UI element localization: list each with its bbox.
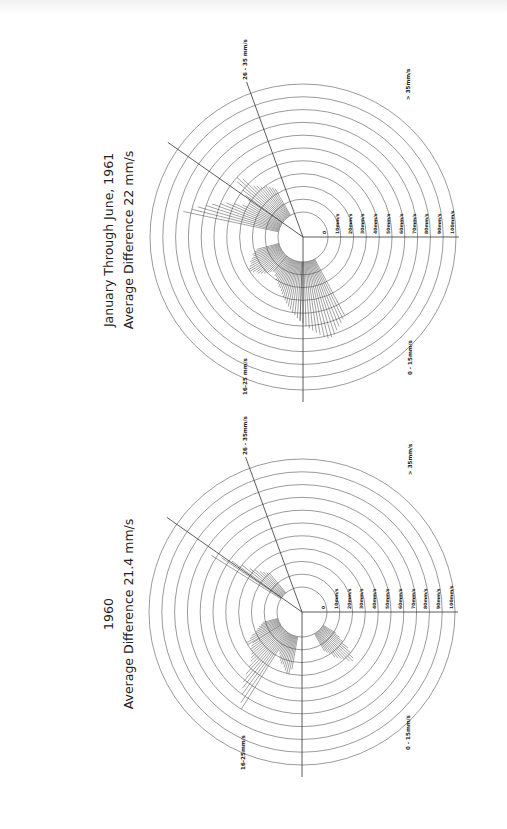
chart-subtitle: Average Difference 21.4 mm/s	[121, 519, 136, 710]
data-ray	[281, 635, 293, 663]
radial-tick-label: 30mm/s	[359, 588, 364, 609]
radial-tick-label: 10mm/s	[335, 213, 340, 234]
radial-tick-label: 100mm/s	[450, 210, 455, 234]
sector-label: 16-25mm/s	[240, 734, 246, 770]
chart-title: 1960	[101, 598, 116, 630]
radial-tick-labels: 010mm/s20mm/s30mm/s40mm/s50mm/s60mm/s70m…	[321, 585, 454, 609]
sector-label: 26 - 35mm/s	[242, 416, 248, 455]
data-ray	[300, 262, 302, 321]
radial-tick-label: 100mm/s	[449, 585, 454, 609]
radial-tick-label: 50mm/s	[386, 213, 391, 234]
data-ray	[305, 262, 310, 328]
radial-tick-label: 90mm/s	[437, 213, 442, 234]
data-ray	[258, 253, 284, 274]
radial-tick-label: 40mm/s	[372, 588, 377, 609]
sector-label: 0 - 15mm/s	[407, 339, 413, 375]
sector-label: 16-25 mm/s	[242, 357, 248, 395]
data-ray	[311, 261, 335, 334]
chart-subtitle: Average Difference 22 mm/s	[121, 151, 136, 330]
radial-tick-label: 10mm/s	[334, 588, 339, 609]
radial-tick-label: 40mm/s	[373, 213, 378, 234]
data-ray	[250, 568, 283, 596]
data-ray	[285, 261, 296, 300]
data-ray	[313, 260, 341, 323]
sector-label: > 35mm/s	[405, 68, 411, 100]
data-ray	[310, 261, 332, 337]
radial-tick-label: 60mm/s	[398, 588, 403, 609]
polar-chart-1961: 010mm/s20mm/s30mm/s40mm/s50mm/s60mm/s70m…	[101, 39, 459, 402]
data-ray	[263, 572, 284, 594]
radial-tick-label: 60mm/s	[399, 213, 404, 234]
data-ray	[222, 558, 281, 598]
data-ray	[243, 631, 286, 682]
sector-label: 26 - 35 mm/s	[242, 39, 248, 80]
radial-tick-label: 20mm/s	[347, 588, 352, 609]
radial-tick-label: 30mm/s	[360, 213, 365, 234]
sector-divider	[167, 517, 302, 612]
sector-divider	[246, 457, 302, 612]
radial-tick-label: 50mm/s	[385, 588, 390, 609]
data-ray	[246, 631, 285, 675]
radial-tick-label: 20mm/s	[348, 213, 353, 234]
radial-tick-label: 0	[321, 606, 326, 609]
data-ray	[304, 262, 306, 326]
data-ray	[198, 207, 279, 230]
data-ray	[317, 632, 335, 657]
radial-tick-label: 70mm/s	[411, 588, 416, 609]
data-ray	[306, 262, 316, 333]
radial-tick-label: 90mm/s	[436, 588, 441, 609]
figure-canvas: 010mm/s20mm/s30mm/s40mm/s50mm/s60mm/s70m…	[0, 0, 507, 829]
data-ray	[206, 206, 279, 230]
radial-tick-label: 80mm/s	[424, 213, 429, 234]
radial-tick-labels: 010mm/s20mm/s30mm/s40mm/s50mm/s60mm/s70m…	[322, 210, 455, 234]
radial-tick-label: 70mm/s	[412, 213, 417, 234]
polar-chart-1960: 010mm/s20mm/s30mm/s40mm/s50mm/s60mm/s70m…	[101, 416, 458, 777]
sector-label: > 35mm/s	[407, 443, 413, 475]
chart-title: January Through June, 1961	[101, 153, 116, 328]
radial-tick-label: 0	[322, 231, 327, 234]
radial-tick-label: 80mm/s	[423, 588, 428, 609]
data-ray	[242, 632, 286, 688]
data-ray	[242, 565, 282, 597]
sector-label: 0 - 15mm/s	[405, 714, 411, 750]
